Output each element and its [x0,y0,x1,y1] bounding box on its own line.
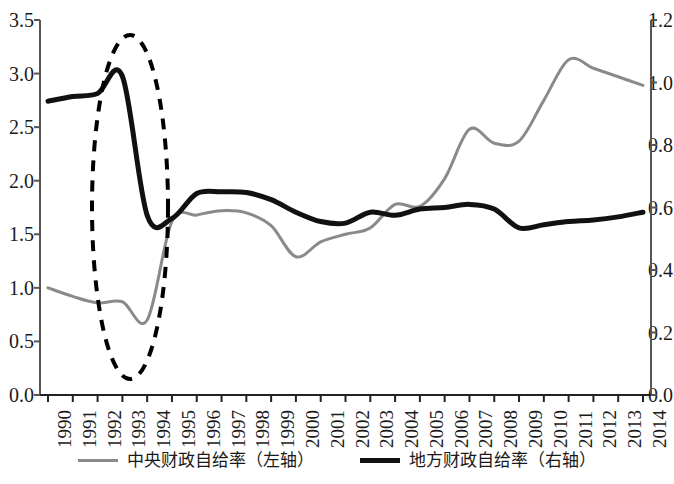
legend-item-local[interactable]: 地方财政自给率（右轴） [360,452,596,469]
series-line-central [48,58,643,323]
black-line-marker-icon [360,458,400,463]
plot-area [0,0,674,484]
legend-label-central: 中央财政自给率（左轴） [127,452,314,469]
gray-line-marker-icon [78,459,118,462]
legend-label-local: 地方财政自给率（右轴） [409,452,596,469]
series-line-local [48,70,643,229]
annotation-layer [92,35,168,379]
series-layer [48,58,643,323]
chart-figure: 0.00.51.01.52.02.53.03.5 0.00.20.40.60.8… [0,0,674,484]
axes-layer [34,20,657,402]
chart-legend: 中央财政自给率（左轴） 地方财政自给率（右轴） [0,452,674,469]
dashed-highlight-ellipse [92,35,168,379]
legend-item-central[interactable]: 中央财政自给率（左轴） [78,452,314,469]
